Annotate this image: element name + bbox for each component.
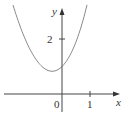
origin-label: 0 <box>54 98 60 110</box>
graph: y 2 0 1 x <box>0 0 124 120</box>
y-axis-arrow-icon <box>60 8 65 15</box>
y-axis-label: y <box>51 5 57 17</box>
plot-svg: y 2 0 1 x <box>0 0 124 120</box>
x-axis-label: x <box>115 96 121 108</box>
x-tick-label-1: 1 <box>87 98 93 110</box>
y-tick-label-2: 2 <box>47 33 53 45</box>
